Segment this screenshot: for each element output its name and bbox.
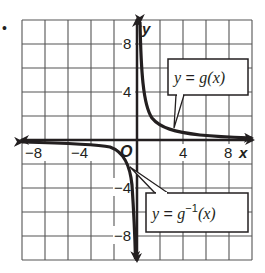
origin-label: O [120, 143, 133, 160]
g-callout: y = g(x) [168, 59, 248, 128]
ginv-callout: y = g−1(x) [130, 167, 248, 232]
ginv-label: y = g−1(x) [150, 202, 216, 223]
x-tick-4: 4 [179, 144, 187, 161]
x-tick-neg8: −8 [25, 144, 42, 161]
y-tick-neg4: −4 [114, 179, 131, 196]
x-tick-neg4: −4 [71, 144, 88, 161]
y-axis-label: y [141, 20, 151, 37]
y-tick-neg8: −8 [114, 227, 131, 244]
chart: 8 4 −4 −8 −8 −4 4 8 x y O y = g(x) y = g… [0, 0, 265, 273]
y-tick-4: 4 [123, 83, 131, 100]
g-label: y = g(x) [172, 69, 225, 87]
y-tick-8: 8 [123, 35, 131, 52]
x-axis-label: x [238, 144, 248, 161]
x-tick-8: 8 [224, 144, 232, 161]
